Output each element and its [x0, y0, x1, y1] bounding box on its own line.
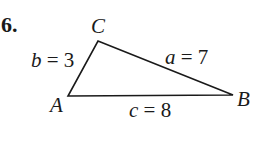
- triangle-diagram: 6. C A B b = 3 a = 7 c = 8: [0, 0, 259, 146]
- side-b-eq: =: [42, 48, 64, 72]
- side-c-label: c = 8: [129, 100, 171, 121]
- side-b-label: b = 3: [31, 50, 74, 71]
- side-a-value: 7: [198, 45, 209, 69]
- side-c-eq: =: [138, 98, 160, 122]
- side-b-value: 3: [64, 48, 75, 72]
- vertex-b-label: B: [237, 89, 250, 110]
- triangle-shape: [0, 0, 259, 146]
- problem-number: 6.: [1, 14, 18, 36]
- side-a-eq: =: [176, 45, 198, 69]
- side-c-name: c: [129, 98, 138, 122]
- vertex-a-label: A: [50, 95, 63, 116]
- side-b-name: b: [31, 48, 42, 72]
- side-c-value: 8: [161, 98, 172, 122]
- side-a-name: a: [165, 45, 176, 69]
- vertex-c-label: C: [91, 16, 105, 37]
- side-a-label: a = 7: [165, 47, 208, 68]
